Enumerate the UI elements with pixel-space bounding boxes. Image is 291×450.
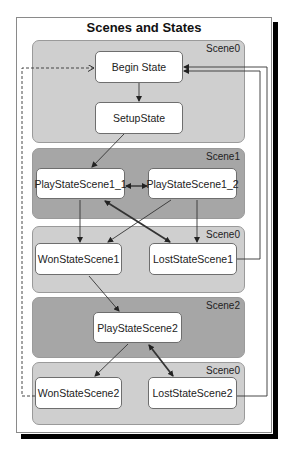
state-play-scene1-1: PlayStateScene1_1 <box>36 168 125 199</box>
scene-label: Scene2 <box>206 300 240 311</box>
state-lost-scene2: LostStateScene2 <box>148 377 237 409</box>
state-play-scene1-2: PlayStateScene1_2 <box>148 168 237 199</box>
state-lost-scene1: LostStateScene1 <box>149 243 237 275</box>
state-setup: SetupState <box>95 102 183 134</box>
frame-shadow-bottom <box>21 434 278 439</box>
scene-label: Scene1 <box>206 151 240 162</box>
state-won-scene1: WonStateScene1 <box>35 243 122 275</box>
scene-label: Scene0 <box>206 43 240 54</box>
scene-label: Scene0 <box>206 229 240 240</box>
state-play-scene2: PlayStateScene2 <box>93 312 182 343</box>
frame-shadow-right <box>273 22 278 439</box>
scene-label: Scene0 <box>206 365 240 376</box>
state-won-scene2: WonStateScene2 <box>35 377 122 409</box>
diagram-title: Scenes and States <box>16 20 272 35</box>
state-begin: Begin State <box>95 51 183 83</box>
